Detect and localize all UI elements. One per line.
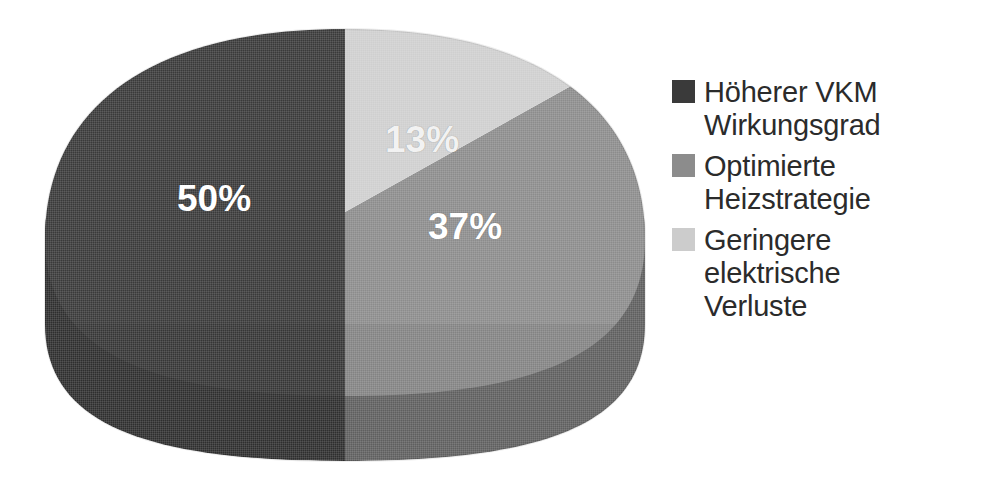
legend-label-1-line2: Wirkungsgrad bbox=[704, 109, 881, 142]
legend-label-1-line1: Höherer VKM bbox=[704, 76, 881, 109]
legend-label-2: Optimierte Heizstrategie bbox=[704, 150, 871, 216]
chart-legend: Höherer VKM Wirkungsgrad Optimierte Heiz… bbox=[672, 76, 972, 331]
legend-label-2-line1: Optimierte bbox=[704, 150, 871, 183]
pie-slice-label-50: 50% bbox=[177, 178, 251, 220]
legend-label-3-line3: Verluste bbox=[704, 290, 840, 323]
chart-canvas: 50% 37% 13% Höherer VKM Wirkungsgrad Opt… bbox=[0, 0, 983, 495]
pie-chart-svg bbox=[40, 24, 650, 466]
pie-slice-label-37: 37% bbox=[428, 206, 502, 248]
pie-slice-label-13: 13% bbox=[385, 119, 459, 161]
legend-label-2-line2: Heizstrategie bbox=[704, 183, 871, 216]
legend-swatch-icon-dark bbox=[672, 80, 695, 103]
legend-swatch-icon-medium bbox=[672, 154, 695, 177]
legend-label-1: Höherer VKM Wirkungsgrad bbox=[704, 76, 881, 142]
legend-label-3-line2: elektrische bbox=[704, 257, 840, 290]
legend-label-3-line1: Geringere bbox=[704, 224, 840, 257]
legend-item-hoeherer-vkm-wirkungsgrad[interactable]: Höherer VKM Wirkungsgrad bbox=[672, 76, 972, 142]
legend-item-geringere-elektrische-verluste[interactable]: Geringere elektrische Verluste bbox=[672, 224, 972, 323]
legend-label-3: Geringere elektrische Verluste bbox=[704, 224, 840, 323]
legend-item-optimierte-heizstrategie[interactable]: Optimierte Heizstrategie bbox=[672, 150, 972, 216]
pie-chart[interactable]: 50% 37% 13% bbox=[40, 24, 650, 466]
legend-swatch-icon-light bbox=[672, 228, 695, 251]
